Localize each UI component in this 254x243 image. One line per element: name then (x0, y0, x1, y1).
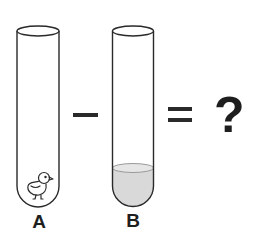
test-tube-a (17, 26, 59, 207)
tube-b-label: B (118, 211, 148, 230)
question-mark: ? (214, 90, 245, 140)
equals-sign (168, 107, 192, 122)
liquid-surface (113, 164, 154, 173)
chick-icon (28, 173, 53, 200)
tube-a-label: A (24, 212, 54, 231)
test-tube-b (113, 26, 154, 206)
minus-sign (73, 113, 98, 117)
